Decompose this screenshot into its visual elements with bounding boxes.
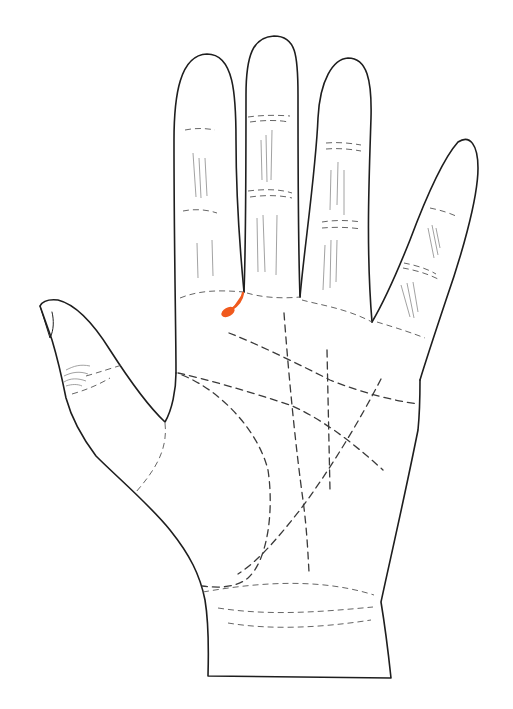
wrist-lines [203,583,374,627]
finger-creases [180,115,458,338]
highlight-mark [221,293,243,318]
hand-diagram: palmistry-hand [0,0,513,709]
thumb-wrinkles [64,365,122,394]
sun-line [327,350,330,490]
ring-finger-outline [300,58,372,322]
hand-outline [40,36,478,678]
hand-illustration [0,0,513,709]
little-finger-outline [372,139,478,380]
life-line [182,375,270,587]
heart-line [229,333,418,404]
thumbnail-outline [40,306,53,338]
mercury-line [238,379,381,574]
fate-line [284,313,309,572]
finger-fine-lines [193,130,440,318]
middle-finger-outline [244,36,300,297]
palm-lines [136,313,418,587]
thumb-base-line [136,423,165,492]
index-finger-outline [174,54,244,373]
